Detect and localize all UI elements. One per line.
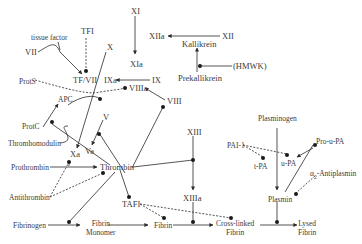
node-IXa: IXa	[104, 76, 117, 85]
node-VIIIa: VIIIa	[129, 84, 147, 93]
fibrin-monomer-line1: Fibrin	[92, 219, 110, 228]
node-tissue-factor: tissue factor	[31, 33, 67, 42]
node-plasminogen: Plasminogen	[258, 114, 297, 123]
node-fibrinogen: Fibrinogen	[13, 221, 46, 230]
node-XI: XI	[131, 7, 140, 16]
lysed-line1: Lysed	[298, 219, 316, 228]
node-thrombin: Thrombin	[100, 163, 134, 172]
node-prekallikrein: Prekallikrein	[178, 74, 222, 83]
node-ProtS: ProtS	[19, 77, 36, 86]
node-plasmin: Plasmin	[268, 195, 292, 204]
node-lysed-fibrin: Lysed Fibrin	[298, 219, 316, 237]
node-prothrombin: Prothrombin	[11, 163, 49, 172]
node-TFI: TFI	[81, 27, 94, 36]
node-Xa: Xa	[70, 150, 80, 159]
node-VIII: VIII	[167, 97, 182, 106]
node-antiplasmin: α2-Antiplasmin	[310, 169, 356, 182]
crosslinked-line1: Cross-linked	[216, 219, 254, 228]
node-fibrin-monomer: Fibrin Monomer	[86, 219, 116, 237]
node-tPA: t-PA	[254, 162, 267, 171]
node-XIa: XIa	[130, 60, 143, 69]
node-XII: XII	[222, 32, 234, 41]
node-uPA: u-PA	[281, 159, 296, 168]
node-fibrin: Fibrin	[154, 221, 172, 230]
node-VII: VII	[25, 48, 37, 57]
node-X: X	[107, 43, 113, 52]
node-IX: IX	[152, 76, 161, 85]
node-PAI1: PAI-1	[227, 141, 245, 150]
fibrin-monomer-line2: Monomer	[86, 228, 116, 237]
node-ProtC: ProtC	[22, 122, 40, 131]
antiplasmin-text: -Antiplasmin	[317, 169, 357, 178]
node-kallikrein: Kallikrein	[182, 40, 216, 49]
node-TAFI: TAFI	[122, 200, 140, 209]
node-TF-VII: TF/VII	[73, 76, 97, 85]
node-thrombomodulin: Thrombomodulin	[8, 139, 61, 148]
node-crosslinked-fibrin: Cross-linked Fibrin	[216, 219, 254, 237]
coagulation-diagram: XI XIa XII XIIa Kallikrein Prekallikrein…	[0, 0, 362, 244]
node-XIIa: XIIa	[149, 32, 165, 41]
node-XIII: XIII	[187, 128, 202, 137]
lysed-line2: Fibrin	[298, 228, 316, 237]
crosslinked-line2: Fibrin	[226, 228, 244, 237]
node-APC: APC	[58, 95, 73, 104]
node-Va: Va	[85, 147, 94, 156]
node-V: V	[103, 113, 109, 122]
node-hmwk: (HMWK)	[233, 62, 267, 71]
node-pro-uPA: Pro-u-PA	[316, 137, 344, 146]
node-antithrombin: Antithrombin	[9, 193, 50, 202]
node-XIIIa: XIIIa	[183, 194, 201, 203]
